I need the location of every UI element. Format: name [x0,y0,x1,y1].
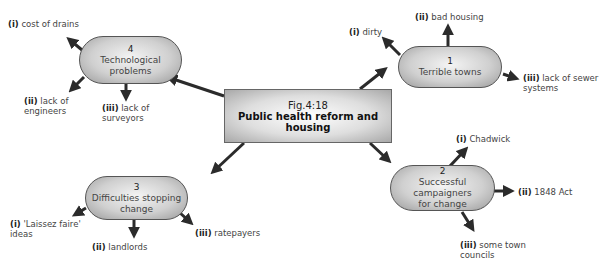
branch-1848-act: (ii) 1848 Act [518,187,572,197]
node-number: 2 [440,166,446,177]
node-number: 3 [134,182,140,193]
node-label-line2: change [120,204,153,215]
branch-lack-of-engineers: (ii) lack of engineers [24,96,68,116]
node-label: Difficulties stopping [92,193,181,204]
node-number: 1 [447,56,453,67]
diagram-title: Public health reform and housing [225,111,391,133]
branch-lack-of-surveyors: (iii) lack of surveyors [102,103,149,123]
node-number: 4 [128,44,134,55]
branch-cost-of-drains: (i) cost of drains [8,19,79,29]
node-difficulties-stopping-change: 3 Difficulties stopping change [85,176,188,220]
branch-ratepayers: (iii) ratepayers [195,228,260,238]
branch-laissez-faire: (i) 'Laissez faire' ideas [10,219,81,239]
branch-dirty: (i) dirty [349,27,382,37]
branch-chadwick: (i) Chadwick [456,134,510,144]
branch-lack-of-sewer-systems: (iii) lack of sewer systems [523,73,598,93]
node-label: Technological problems [80,55,181,77]
node-terrible-towns: 1 Terrible towns [398,46,502,88]
central-title-box: Fig.4:18 Public health reform and housin… [224,89,392,143]
node-technological-problems: 4 Technological problems [79,36,182,84]
branch-landlords: (ii) landlords [92,242,147,252]
node-label: Terrible towns [419,67,482,78]
figure-number: Fig.4:18 [225,100,391,111]
branch-some-town-councils: (iii) some town councils [460,240,526,260]
node-label: Successful campaigners [391,177,494,199]
node-label-line2: for change [418,199,466,210]
branch-bad-housing: (ii) bad housing [415,12,484,22]
node-successful-campaigners: 2 Successful campaigners for change [390,165,495,211]
